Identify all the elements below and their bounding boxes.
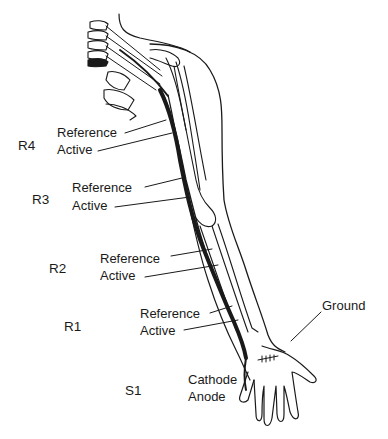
leader-r1-active [184, 320, 238, 330]
r2-reference-label: Reference [100, 252, 160, 266]
anode-label: Anode [188, 390, 226, 404]
cervical-vertebrae [88, 21, 108, 67]
leader-r3-reference [145, 178, 182, 187]
neck-outline [119, 14, 190, 52]
r1-active-label: Active [140, 324, 175, 338]
ground-label: Ground [322, 299, 365, 313]
rib-cage [104, 71, 136, 120]
leader-ground [291, 312, 321, 341]
inner-arm-outline [168, 95, 250, 380]
thumb-electrode [240, 372, 254, 402]
stimulation-label-s1: S1 [125, 384, 142, 398]
segment-label-r4: R4 [18, 139, 35, 153]
diagram-canvas: R4 Reference Active R3 Reference Active … [0, 0, 388, 439]
segment-label-r2: R2 [49, 262, 66, 276]
cathode-label: Cathode [188, 373, 237, 387]
r4-reference-label: Reference [57, 126, 117, 140]
shoulder-bones [150, 49, 216, 226]
ring-electrode-ticks [258, 355, 278, 362]
r1-reference-label: Reference [140, 307, 200, 321]
stim-lead [245, 358, 247, 390]
r2-active-label: Active [100, 269, 135, 283]
r4-active-label: Active [57, 143, 92, 157]
leader-r4-reference [125, 120, 166, 133]
r3-reference-label: Reference [72, 181, 132, 195]
hand-outline [254, 346, 316, 426]
segment-label-r3: R3 [32, 193, 49, 207]
segment-label-r1: R1 [64, 320, 81, 334]
r3-active-label: Active [72, 199, 107, 213]
nerve-trunk-secondary [164, 96, 240, 336]
leader-r3-active [115, 197, 190, 207]
